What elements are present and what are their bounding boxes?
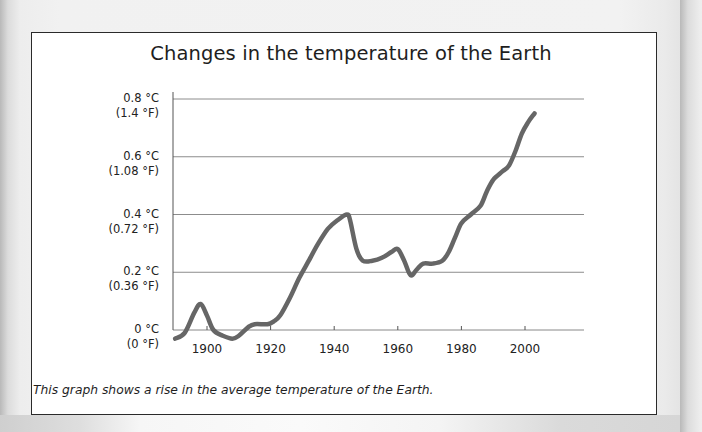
x-tick-label: 1920 [246,342,296,356]
y-tick-label: 0.8 °C(1.4 °F) [69,91,159,121]
y-tick-label: 0 °C(0 °F) [69,322,159,352]
x-tick-label: 1940 [309,342,359,356]
temperature-line [175,113,534,338]
x-axis-ticks [207,326,525,330]
x-tick-label: 2000 [500,342,550,356]
y-tick-fahrenheit: (1.4 °F) [69,106,159,121]
chart-caption: This graph shows a rise in the average t… [33,383,434,397]
x-tick-label: 1900 [182,342,232,356]
y-tick-label: 0.6 °C(1.08 °F) [69,149,159,179]
y-tick-celsius: 0 °C [69,322,159,337]
y-tick-fahrenheit: (0.72 °F) [69,222,159,237]
y-tick-label: 0.2 °C(0.36 °F) [69,264,159,294]
y-tick-celsius: 0.4 °C [69,207,159,222]
y-tick-fahrenheit: (0.36 °F) [69,279,159,294]
y-tick-celsius: 0.2 °C [69,264,159,279]
x-tick-label: 1960 [373,342,423,356]
y-tick-fahrenheit: (1.08 °F) [69,164,159,179]
y-tick-celsius: 0.8 °C [69,91,159,106]
x-tick-label: 1980 [436,342,486,356]
y-tick-celsius: 0.6 °C [69,149,159,164]
y-tick-fahrenheit: (0 °F) [69,337,159,352]
y-tick-label: 0.4 °C(0.72 °F) [69,207,159,237]
